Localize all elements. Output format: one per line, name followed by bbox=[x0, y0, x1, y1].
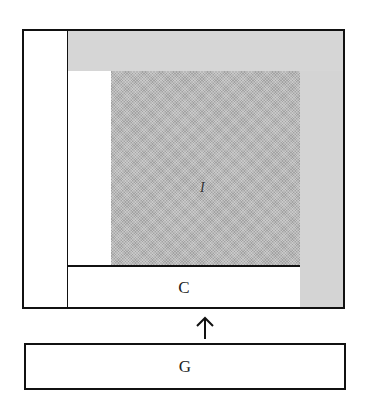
g-box: G bbox=[24, 343, 346, 390]
center-label: I bbox=[200, 180, 205, 196]
c-box-label: C bbox=[178, 278, 189, 298]
g-box-label: G bbox=[179, 357, 191, 377]
top-gray-band bbox=[68, 29, 345, 73]
up-arrow-icon bbox=[194, 314, 216, 340]
center-textured-square bbox=[111, 71, 300, 266]
outer-left-strip bbox=[22, 29, 69, 309]
c-box: C bbox=[68, 265, 300, 309]
right-gray-strip bbox=[298, 71, 345, 307]
inner-left-strip bbox=[68, 71, 113, 267]
